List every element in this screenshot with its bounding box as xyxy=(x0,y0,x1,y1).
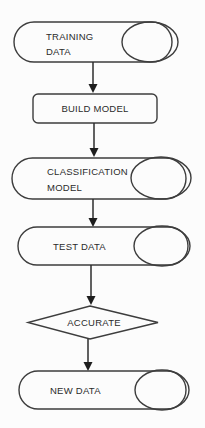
training-data-stadium xyxy=(14,22,172,62)
arrowhead-icon xyxy=(84,362,93,371)
edge-classification-to-test xyxy=(89,199,98,227)
new-data-label: NEW DATA xyxy=(50,385,101,396)
arrowhead-icon xyxy=(90,148,99,157)
classification-model-label-line2: MODEL xyxy=(47,182,82,193)
test-data-label: TEST DATA xyxy=(53,241,106,252)
build-model-label: BUILD MODEL xyxy=(61,103,128,114)
node-build-model: BUILD MODEL xyxy=(33,94,157,123)
node-test-data: TEST DATA xyxy=(18,226,190,266)
training-data-label-line1: TRAINING xyxy=(46,31,93,42)
flowchart-canvas: TRAINING DATA BUILD MODEL CLASSIFICATION… xyxy=(0,0,205,428)
classification-model-label-line1: CLASSIFICATION xyxy=(47,166,128,177)
accurate-label: ACCURATE xyxy=(67,317,121,328)
arrowhead-icon xyxy=(87,296,96,305)
edge-test-to-accurate xyxy=(87,265,96,305)
training-data-label-line2: DATA xyxy=(46,46,71,57)
node-classification-model: CLASSIFICATION MODEL xyxy=(12,157,191,199)
new-data-stadium xyxy=(19,371,186,409)
edge-training-to-build xyxy=(89,62,98,93)
node-new-data: NEW DATA xyxy=(19,370,189,410)
arrowhead-icon xyxy=(89,218,98,227)
classification-model-stadium xyxy=(12,158,186,199)
edge-build-to-classification xyxy=(90,123,99,157)
node-accurate: ACCURATE xyxy=(28,306,158,339)
arrowhead-icon xyxy=(89,84,98,93)
flowchart-svg: TRAINING DATA BUILD MODEL CLASSIFICATION… xyxy=(0,0,205,428)
node-training-data: TRAINING DATA xyxy=(14,22,178,62)
edge-accurate-to-new xyxy=(84,339,93,371)
